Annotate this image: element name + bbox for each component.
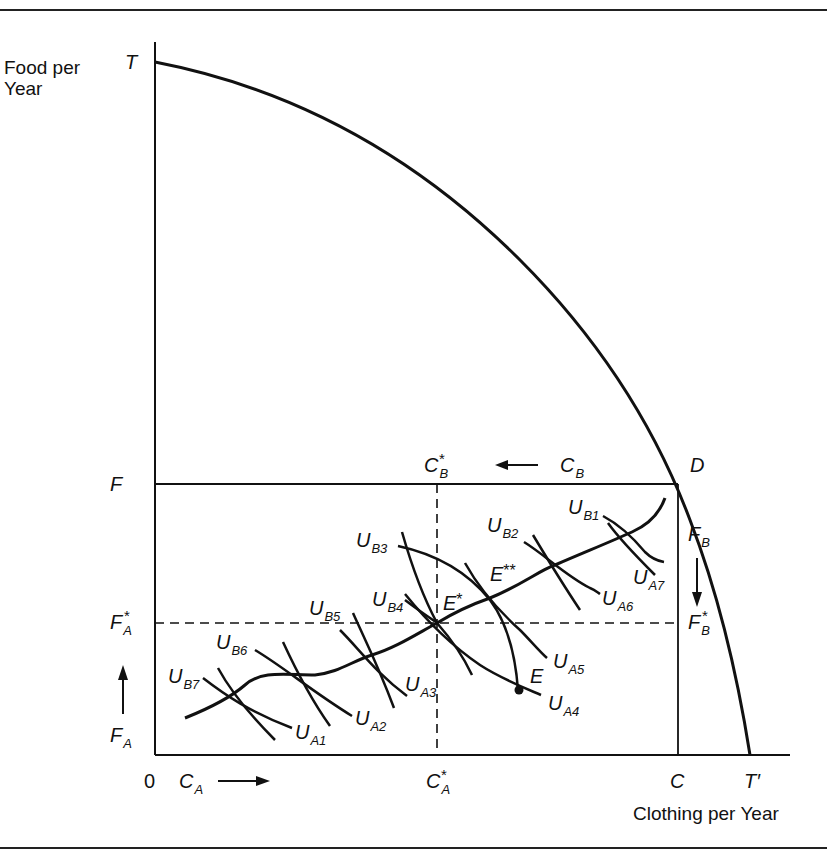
label-c-a-star: CA* [426, 771, 450, 791]
ua1-sub: A1 [310, 733, 326, 748]
ub5-sub: B5 [324, 609, 340, 624]
label-ub5: UB5 [309, 598, 340, 618]
c-b-star-sup: * [439, 451, 445, 466]
ua5-main: U [553, 650, 567, 672]
f-b-star-sup: * [702, 608, 708, 623]
e-star-mark: * [456, 591, 462, 608]
label-ua7: UA7 [633, 567, 664, 587]
c-b-main: C [560, 454, 574, 476]
f-a-main: F [110, 724, 122, 746]
ub6-sub: B6 [231, 643, 247, 658]
ub1-sub: B1 [583, 508, 599, 523]
ua6-sub: A6 [617, 599, 633, 614]
label-c-b-star: CB* [424, 455, 448, 475]
label-d: D [690, 455, 704, 475]
f-b-star-sub: B [701, 623, 710, 638]
ub2-main: U [487, 514, 501, 536]
ub3-main: U [356, 529, 370, 551]
ub6-main: U [216, 631, 230, 653]
c-a-star-sub: A [441, 782, 450, 797]
f-b-sub: B [701, 535, 710, 550]
ua6-main: U [602, 587, 616, 609]
y-axis-title: Food per Year [4, 58, 80, 100]
x-axis-title: Clothing per Year [633, 804, 779, 825]
arrow-f-b-down [692, 558, 702, 607]
indifference-curve-ub7 [218, 668, 275, 740]
label-t: T [125, 52, 137, 72]
indifference-curve-ua7 [603, 516, 664, 562]
arrow-c-a-right [218, 776, 270, 786]
f-a-star-main: F [110, 611, 122, 633]
label-ub1: UB1 [568, 497, 599, 517]
label-e-star: E* [443, 593, 463, 613]
label-ub3: UB3 [356, 530, 387, 550]
y-axis-title-line2: Year [4, 79, 80, 100]
ub2-sub: B2 [502, 526, 518, 541]
label-ub6: UB6 [216, 632, 247, 652]
label-ua6: UA6 [602, 588, 633, 608]
ua3-sub: A3 [420, 685, 436, 700]
label-ua3: UA3 [405, 674, 436, 694]
c-b-star-main: C [424, 454, 438, 476]
ua7-main: U [633, 566, 647, 588]
c-a-sub: A [194, 782, 203, 797]
ub3-sub: B3 [371, 541, 387, 556]
label-ub7: UB7 [168, 666, 199, 686]
label-c: C [670, 771, 684, 791]
label-ub4: UB4 [372, 589, 403, 609]
c-a-star-main: C [426, 770, 440, 792]
c-b-sub: B [575, 466, 584, 481]
origin-label: 0 [144, 771, 155, 791]
e-double-star-main: E [490, 563, 503, 585]
ua7-sub: A7 [648, 578, 664, 593]
ua3-main: U [405, 673, 419, 695]
ua2-main: U [355, 707, 369, 729]
ub1-main: U [568, 496, 582, 518]
e-double-star-mark: ** [503, 562, 515, 579]
label-f-a-star: FA* [110, 612, 132, 632]
ua4-main: U [548, 692, 562, 714]
f-b-star-main: F [688, 611, 700, 633]
ub7-main: U [168, 665, 182, 687]
f-a-star-sup: * [124, 608, 130, 623]
label-ua1: UA1 [295, 722, 326, 742]
label-f: F [110, 474, 122, 494]
ua2-sub: A2 [370, 719, 386, 734]
ub4-main: U [372, 588, 386, 610]
label-c-a: CA [179, 771, 203, 791]
label-ua4: UA4 [548, 693, 579, 713]
f-a-star-sub: A [123, 623, 132, 638]
label-t-prime: T′ [744, 771, 760, 791]
label-f-b: FB [688, 524, 710, 544]
label-e: E [530, 666, 543, 686]
arrow-c-b-left [495, 460, 538, 470]
c-b-star-sub: B [439, 466, 448, 481]
ub5-main: U [309, 597, 323, 619]
e-star-main: E [443, 592, 456, 614]
c-a-main: C [179, 770, 193, 792]
point-e-marker [515, 686, 524, 695]
label-f-a: FA [110, 725, 132, 745]
label-e-double-star: E** [490, 564, 516, 584]
label-ub2: UB2 [487, 515, 518, 535]
ub7-sub: B7 [183, 677, 199, 692]
f-b-main: F [688, 523, 700, 545]
y-axis-title-line1: Food per [4, 58, 80, 79]
c-a-star-sup: * [441, 767, 447, 782]
label-ua2: UA2 [355, 708, 386, 728]
ua4-sub: A4 [563, 704, 579, 719]
arrow-f-a-up [118, 665, 128, 714]
ub4-sub: B4 [387, 600, 403, 615]
label-f-b-star: FB* [688, 612, 710, 632]
label-ua5: UA5 [553, 651, 584, 671]
ua5-sub: A5 [568, 662, 584, 677]
label-c-b: CB [560, 455, 584, 475]
f-a-sub: A [123, 736, 132, 751]
ua1-main: U [295, 721, 309, 743]
